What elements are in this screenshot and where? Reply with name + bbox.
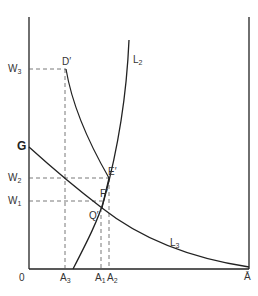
- curve-l3: [29, 147, 249, 267]
- label-point-d: D′: [62, 57, 71, 67]
- diagram-canvas: [0, 0, 258, 296]
- curve-d-to-e: [66, 69, 109, 178]
- label-w2: W2: [8, 173, 21, 186]
- label-a-bar: Ā: [244, 272, 251, 282]
- label-point-e: E′: [108, 167, 117, 177]
- label-w1: W1: [8, 196, 21, 209]
- curve-l2: [73, 40, 129, 269]
- label-g: G: [17, 141, 26, 151]
- label-a1: A1: [95, 273, 106, 286]
- label-origin: 0: [19, 273, 25, 283]
- label-a2: A2: [107, 273, 118, 286]
- label-point-f: F′: [100, 189, 108, 199]
- label-curve-l3: L3: [170, 238, 179, 251]
- label-curve-l2: L2: [133, 55, 142, 68]
- label-w3: W3: [8, 64, 21, 77]
- label-a3: A3: [60, 273, 71, 286]
- label-point-q: Q′: [89, 211, 99, 221]
